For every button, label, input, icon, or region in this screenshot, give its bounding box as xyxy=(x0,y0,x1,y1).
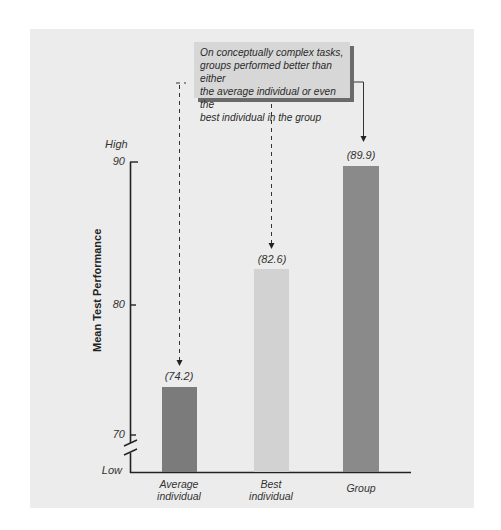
value-label-group: (89.9) xyxy=(331,149,391,161)
y-axis-high-label: High xyxy=(105,138,128,150)
callout-line: best individual in the group xyxy=(200,111,344,124)
callout-line: the average individual or even the xyxy=(200,85,344,111)
y-tick-70: 70 xyxy=(95,428,125,440)
bar-best-individual xyxy=(254,269,289,472)
callout-line: On conceptually complex tasks, xyxy=(200,46,344,59)
value-label-best: (82.6) xyxy=(242,253,302,265)
bar-average-individual xyxy=(162,387,197,472)
value-label-average: (74.2) xyxy=(149,370,209,382)
category-label-average: Average individual xyxy=(139,478,219,502)
y-axis-title: Mean Test Performance xyxy=(91,229,103,352)
bar-group xyxy=(343,166,379,472)
annotation-callout: On conceptually complex tasks, groups pe… xyxy=(194,42,350,98)
category-label-group: Group xyxy=(321,482,401,494)
category-label-best: Best individual xyxy=(231,478,311,502)
y-tick-90: 90 xyxy=(95,155,125,167)
y-axis-low-label: Low xyxy=(92,464,122,476)
callout-line: groups performed better than either xyxy=(200,59,344,85)
